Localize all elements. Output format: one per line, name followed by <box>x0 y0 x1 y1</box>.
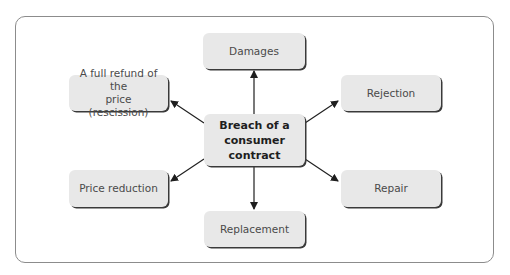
node-center-label: Breach of a consumer contract <box>219 118 289 163</box>
node-damages-label: Damages <box>229 45 279 58</box>
center-line-2: consumer <box>224 134 285 147</box>
arrow-to-rejection <box>305 101 338 123</box>
node-replacement: Replacement <box>204 211 305 247</box>
node-replacement-label: Replacement <box>220 223 289 236</box>
arrow-to-price-reduction <box>171 159 204 181</box>
arrow-to-repair <box>305 159 338 181</box>
arrow-to-full-refund <box>171 101 204 123</box>
node-repair-label: Repair <box>374 182 408 195</box>
center-line-3: contract <box>229 149 281 162</box>
node-full-refund: A full refund of the price (rescission) <box>69 75 168 111</box>
node-damages: Damages <box>203 33 305 69</box>
node-repair: Repair <box>341 170 441 207</box>
node-price-reduction-label: Price reduction <box>79 182 158 195</box>
node-center-breach: Breach of a consumer contract <box>204 114 305 166</box>
center-line-1: Breach of a <box>219 119 289 132</box>
node-rejection: Rejection <box>341 75 441 111</box>
node-full-refund-line-2: price (rescission) <box>89 93 149 118</box>
node-price-reduction: Price reduction <box>69 170 168 207</box>
node-rejection-label: Rejection <box>367 87 416 100</box>
node-full-refund-line-1: A full refund of the <box>80 67 158 92</box>
node-full-refund-label: A full refund of the price (rescission) <box>75 67 162 119</box>
